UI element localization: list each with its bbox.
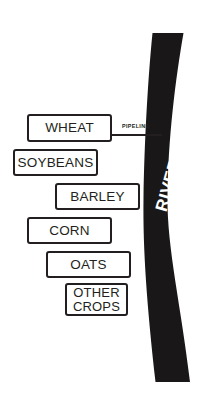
crop-box-other-crops[interactable]: OTHER CROPS: [65, 283, 128, 316]
crop-box-wheat[interactable]: WHEAT: [27, 114, 112, 142]
crop-box-corn[interactable]: CORN: [27, 217, 112, 244]
crop-box-soybeans[interactable]: SOYBEANS: [13, 149, 98, 176]
diagram-canvas: RIVER PIPELINE WHEAT SOYBEANS BARLEY COR…: [0, 0, 202, 409]
crop-box-oats[interactable]: OATS: [46, 251, 131, 278]
crop-box-barley[interactable]: BARLEY: [55, 183, 140, 210]
pipeline-connector-line: [104, 134, 162, 136]
pipeline-label: PIPELINE: [122, 124, 149, 129]
